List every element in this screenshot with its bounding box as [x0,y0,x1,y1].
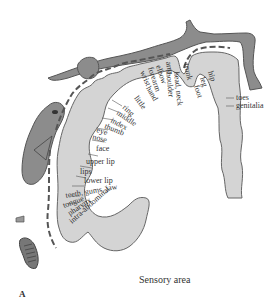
sensory-homunculus-figure: toes genitalia hip leg foot trunk head, … [0,0,273,299]
label-genitalia: genitalia [236,101,264,110]
panel-label: A [19,290,26,299]
homunculus-hand-shape [77,57,98,79]
homunculus-diagram: toes genitalia hip leg foot trunk head, … [0,0,273,299]
teeth-shape [16,216,24,222]
label-face: face [96,144,110,153]
eye-mark [52,110,58,114]
label-lips: lips [80,167,92,176]
label-upper-lip: upper lip [86,157,115,166]
label-little: little [132,94,148,112]
figure-caption: Sensory area [139,274,190,285]
